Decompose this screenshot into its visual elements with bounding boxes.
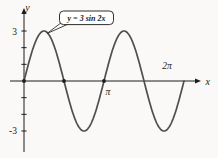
x-intercept-dot (102, 79, 106, 83)
y-axis-label: y (24, 2, 30, 13)
figure-canvas: y x 3 -3 π 2π y = 3 sin 2x (0, 0, 218, 158)
x-axis-arrow-icon (195, 78, 201, 83)
x-intercept-dot (22, 79, 26, 83)
x-axis-label: x (205, 76, 211, 87)
sine-plot: y x 3 -3 π 2π y = 3 sin 2x (0, 0, 218, 158)
x-tick-label-pi: π (106, 87, 111, 97)
x-intercept-dot (62, 79, 66, 83)
y-tick-label-3: 3 (12, 27, 17, 37)
equation-label: y = 3 sin 2x (67, 14, 106, 23)
y-tick-label-neg3: -3 (9, 126, 17, 136)
x-tick-label-2pi: 2π (162, 61, 172, 71)
